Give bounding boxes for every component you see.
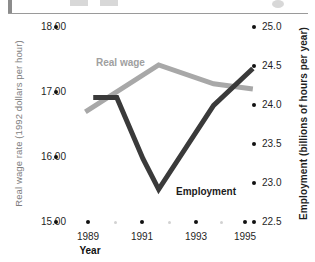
series-label-real-wage: Real wage [96,57,145,68]
plot-area [0,0,315,262]
series-label-employment: Employment [176,186,236,197]
series-line-real-wage [85,65,252,112]
chart-figure: Real wage rate (1992 dollars per hour) E… [0,0,315,262]
